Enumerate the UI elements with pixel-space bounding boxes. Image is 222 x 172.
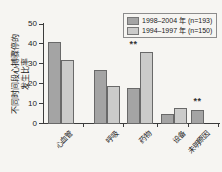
x-category-label: 设备 xyxy=(170,128,188,146)
y-tick-label: 40 xyxy=(18,39,37,49)
x-axis-tick xyxy=(188,124,189,127)
x-category-label: 心血管 xyxy=(52,128,75,151)
y-tick-label: 30 xyxy=(18,59,37,69)
y-axis-tick xyxy=(39,103,43,104)
legend-item: 1994–1997 年 (n=150) xyxy=(127,26,212,35)
legend: 1998–2004 年 (n=193)1994–1997 年 (n=150) xyxy=(123,13,217,38)
bar xyxy=(107,86,120,124)
y-axis-title: 不同时间段心搏骤停的 发生比率 xyxy=(11,18,32,130)
y-axis-line xyxy=(43,23,44,124)
legend-label: 1998–2004 年 (n=193) xyxy=(142,16,212,25)
y-axis-tick xyxy=(39,43,43,44)
y-tick-label: 0 xyxy=(18,119,37,129)
y-tick-label: 10 xyxy=(18,99,37,109)
x-axis-tick xyxy=(83,124,84,127)
x-axis-tick xyxy=(157,124,158,127)
significance-marker: ** xyxy=(188,96,208,106)
y-tick-label: 50 xyxy=(18,19,37,29)
bar xyxy=(161,114,174,124)
legend-swatch xyxy=(127,27,139,35)
y-axis-tick xyxy=(39,83,43,84)
bar xyxy=(48,42,61,124)
bar-chart-figure: 不同时间段心搏骤停的 发生比率 1998–2004 年 (n=193)1994–… xyxy=(0,0,222,172)
y-axis-tick xyxy=(39,24,43,25)
x-category-label: 呼吸 xyxy=(103,128,121,146)
y-axis-tick xyxy=(39,63,43,64)
x-axis-tick xyxy=(123,124,124,127)
bar xyxy=(191,110,204,124)
bar xyxy=(94,70,107,124)
y-tick-label: 20 xyxy=(18,79,37,89)
legend-label: 1994–1997 年 (n=150) xyxy=(142,26,212,35)
y-axis-title-line1: 不同时间段心搏骤停的 xyxy=(11,18,21,130)
bar xyxy=(127,88,140,124)
legend-item: 1998–2004 年 (n=193) xyxy=(127,16,212,25)
x-category-label: 药物 xyxy=(136,128,154,146)
x-axis-tick xyxy=(218,124,219,127)
bar xyxy=(61,60,74,124)
y-axis-title-line2: 发生比率 xyxy=(21,18,31,130)
x-category-label: 未明原因 xyxy=(184,128,212,156)
y-axis-tick xyxy=(39,123,43,124)
bar xyxy=(140,52,153,124)
bar xyxy=(174,108,187,124)
significance-marker: ** xyxy=(124,39,144,49)
legend-swatch xyxy=(127,17,139,25)
